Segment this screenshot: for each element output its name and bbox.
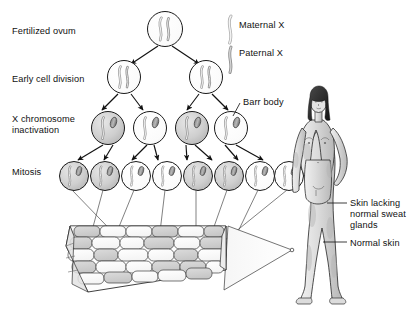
row-mitosis [60,162,304,191]
legend-label-paternal-x: Paternal X [239,48,283,59]
label-early-cell-division: Early cell division [12,74,84,85]
cell-mitosis-4 [153,162,182,191]
cell-early-division-2 [190,61,223,94]
legend-paternal-x-glyph [230,47,231,72]
label-fertilized-ovum: Fertilized ovum [12,26,76,37]
label-x-chromosome-inactivation: X chromosome inactivation [12,114,75,136]
legend-label-maternal-x: Maternal X [239,20,284,31]
cell-fertilized-ovum [148,12,183,47]
callout-label-skin-lacking-sweat-glands: Skin lacking normal sweat glands [350,198,406,231]
body-figure [292,86,347,304]
label-mitosis: Mitosis [12,167,41,178]
chromosome-maternal [160,18,162,40]
skin-tissue-block [66,226,226,292]
x-inactivation-diagram: Fertilized ovum Early cell division X ch… [0,0,418,309]
cell-xinact-3 [176,112,209,145]
chromosome-paternal [168,18,169,39]
diagram-canvas [0,0,418,309]
cell-mitosis-3 [122,162,151,191]
tissue-projection-cone [224,226,294,290]
callout-label-barr-body: Barr body [243,97,284,108]
cell-mitosis-6 [215,162,244,191]
legend-maternal-x-glyph [229,16,231,43]
cell-xinact-2 [134,112,167,145]
cell-mitosis-1 [60,162,89,191]
callout-label-normal-skin: Normal skin [350,238,400,249]
cell-xinact-1 [92,112,125,145]
row-x-inactivation [92,112,248,145]
cell-mitosis-7 [246,162,275,191]
cell-xinact-4 [215,112,248,145]
cell-early-division-1 [108,61,141,94]
cell-mitosis-5 [184,162,213,191]
cell-mitosis-2 [91,162,120,191]
